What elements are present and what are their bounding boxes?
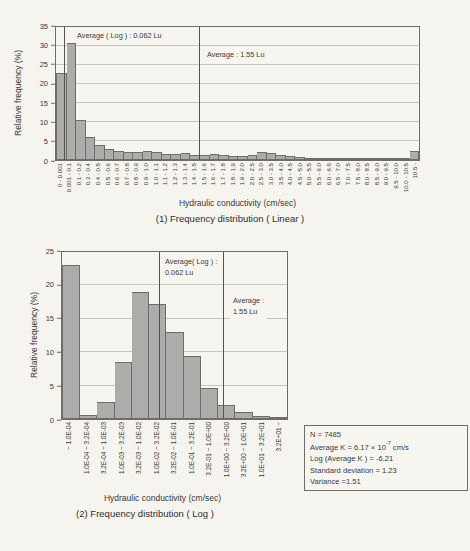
stat-average-k: Average K = 6.17 × 10-7 cm/s (310, 440, 462, 453)
average-reference-line (159, 252, 160, 419)
y-tick-label: 15 (40, 99, 55, 107)
y-tick-label: 15 (46, 315, 61, 323)
scanned-figure-page: Relative frequency (%) 05101520253035 Av… (0, 0, 470, 551)
x-tick-label: 3.2E-01 ~ 1.0E+00 (206, 422, 213, 476)
y-tick-label: 0 (50, 416, 61, 424)
x-tick-label: 2.0 - 2.5 (249, 163, 255, 185)
x-tick-label: 0.1 - 0.2 (76, 163, 82, 185)
x-tick-label: 10.5 - (412, 163, 418, 179)
x-tick-label: 0.7 - 0.8 (124, 163, 130, 185)
x-tick-label: 10.0 - 10.5 (403, 163, 409, 192)
x-tick-label: 0.6 - 0.7 (114, 163, 120, 185)
x-tick-label: 1.0E-02 ~ 3.2E-02 (154, 422, 161, 474)
annotation-line-text: 0.062 Lu (165, 268, 217, 279)
annotation-line-text: Average( Log ) : (165, 257, 217, 268)
x-tick-label: 1.0E+00 ~ 3.2E+00 (224, 422, 231, 477)
x-tick-label: ~ 1.0E-04 (66, 422, 73, 450)
y-tick-label: 30 (40, 42, 55, 50)
y-tick-label: 5 (44, 138, 55, 146)
y-axis-ticks: 05101520253035 (26, 26, 55, 161)
chart-caption: (1) Frequency distribution ( Linear ) (30, 213, 430, 224)
average-reference-line (199, 27, 200, 160)
y-tick-label: 0 (44, 157, 55, 165)
y-axis-title: Relative frequency (%) (13, 26, 23, 161)
annotation-line-text: Average : 1.55 Lu (207, 50, 264, 61)
y-tick-label: 20 (40, 80, 55, 88)
x-tick-label: 3.2E+00 ~ 1.0E+01 (241, 422, 248, 477)
chart-frequency-log: Relative frequency (%) 0510152025 Averag… (0, 240, 470, 551)
annotation-line-text: Average : (233, 296, 264, 307)
x-tick-label: 9.5 - 10.0 (393, 163, 399, 189)
x-tick: 3.2E-01 ~ 1.0E+00 (201, 422, 218, 492)
x-tick: 1.0E-02 ~ 3.2E-02 (148, 422, 165, 492)
x-tick: 1.0E+01 ~ 3.2E+01 (253, 422, 270, 492)
x-tick-label: 1.0E-03 ~ 3.2E-03 (119, 422, 126, 474)
annotation-layer: Average( Log ) :0.062 LuAverage :1.55 Lu (62, 252, 287, 419)
annotation-line-text: 1.55 Lu (233, 307, 264, 318)
x-tick: 3.2E+00 ~ 1.0E+01 (236, 422, 253, 492)
y-tick-label: 5 (50, 382, 61, 390)
x-tick-label: 1.7 - 1.8 (220, 163, 226, 185)
x-tick-label: 0.001 - 0.1 (66, 163, 72, 192)
x-tick-label: 1.1 - 1.2 (162, 163, 168, 185)
x-tick: 3.2E-03 ~ 1.0E-02 (131, 422, 148, 492)
x-tick-label: 1.8 - 1.9 (230, 163, 236, 185)
x-tick-label: 3.2E-02 ~ 1.0E-01 (171, 422, 178, 474)
y-axis-ticks: 0510152025 (32, 251, 61, 420)
x-tick-label: 1.0E-01 ~ 3.2E-01 (189, 422, 196, 474)
x-tick-label: 1.9 - 2.0 (239, 163, 245, 185)
annotation-label: Average ( Log ) : 0.062 Lu (74, 30, 165, 43)
x-tick-label: 5.5 - 6.0 (316, 163, 322, 185)
chart-caption: (2) Frequency distribution ( Log ) (20, 508, 270, 519)
average-reference-line (64, 27, 65, 160)
x-tick-label: 3.5 - 4.0 (278, 163, 284, 185)
x-tick-label: 3.2E-03 ~ 1.0E-02 (136, 422, 143, 474)
x-tick-label: 9.0 - 9.5 (383, 163, 389, 185)
x-tick-label: 4.5 - 5.0 (297, 163, 303, 185)
x-tick-label: 7.5 - 8.0 (355, 163, 361, 185)
x-tick: 1.0E+00 ~ 3.2E+00 (218, 422, 235, 492)
x-tick-label: 3.2E-04 ~ 1.0E-03 (101, 422, 108, 474)
y-tick-label: 10 (46, 349, 61, 357)
annotation-line-text: Average ( Log ) : 0.062 Lu (77, 31, 162, 42)
chart-frequency-linear: Relative frequency (%) 05101520253035 Av… (0, 0, 470, 240)
annotation-label: Average :1.55 Lu (230, 295, 267, 319)
x-tick-label: 0.8 - 0.9 (133, 163, 139, 185)
x-tick-label: 1.4 - 1.5 (191, 163, 197, 185)
x-tick: 1.0E-01 ~ 3.2E-01 (183, 422, 200, 492)
x-tick-label: 7.0 - 7.5 (345, 163, 351, 185)
stat-average-k-unit: cm/s (391, 443, 409, 452)
stat-n: N = 7485 (310, 429, 462, 440)
x-tick-label: 2.5 - 3.0 (258, 163, 264, 185)
y-tick-label: 25 (46, 247, 61, 255)
x-tick-label: 6.0 - 6.5 (326, 163, 332, 185)
x-tick-label: 0.3 - 0.4 (85, 163, 91, 185)
x-tick-label: 1.2 - 1.3 (172, 163, 178, 185)
x-tick-label: 0 - 0.001 (57, 163, 63, 187)
plot-area: Average( Log ) :0.062 LuAverage :1.55 Lu (61, 251, 288, 420)
x-tick: 3.2E+01 ~ (271, 422, 288, 492)
x-tick-label: 5.0 - 5.5 (306, 163, 312, 185)
x-tick-label: 1.3 - 1.4 (182, 163, 188, 185)
x-axis-title: Hydraulic conductivity (cm/sec) (55, 198, 420, 208)
x-tick: ~ 1.0E-04 (61, 422, 78, 492)
x-tick-label: 4.0 - 4.5 (287, 163, 293, 185)
y-tick-label: 20 (46, 281, 61, 289)
x-tick-label: 1.0E+01 ~ 3.2E+01 (259, 422, 266, 477)
y-tick-label: 25 (40, 61, 55, 69)
x-axis-title: Hydraulic conductivity (cm/sec) (40, 493, 285, 503)
x-tick-label: 0.4 - 0.5 (95, 163, 101, 185)
x-tick-label: 3.2E+01 ~ (276, 422, 283, 452)
x-tick-label: 0.9 - 1.0 (143, 163, 149, 185)
stat-average-k-exponent: -7 (386, 440, 391, 446)
x-tick-label: 3.0 - 3.5 (268, 163, 274, 185)
x-tick-label: 6.5 - 7.0 (335, 163, 341, 185)
y-tick-label: 10 (40, 119, 55, 127)
x-tick: 1.0E-04 ~ 3.2E-04 (78, 422, 95, 492)
annotation-label: Average( Log ) :0.062 Lu (162, 256, 220, 280)
x-tick-label: 0.5 - 0.6 (105, 163, 111, 185)
plot-area: Average ( Log ) : 0.062 LuAverage : 1.55… (55, 26, 420, 161)
x-tick: 3.2E-02 ~ 1.0E-01 (166, 422, 183, 492)
x-tick: 1.0E-03 ~ 3.2E-03 (113, 422, 130, 492)
x-tick-label: 1.6 - 1.7 (210, 163, 216, 185)
